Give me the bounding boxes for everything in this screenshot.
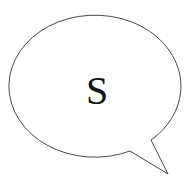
bubble-label: S — [86, 68, 108, 113]
speech-bubble-diagram: S — [0, 0, 192, 188]
